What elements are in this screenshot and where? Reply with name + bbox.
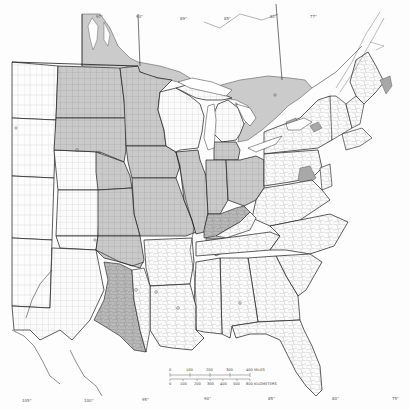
scale-km-0: 0 [169, 382, 171, 386]
northeast-states [264, 52, 392, 190]
scale-bar [170, 373, 250, 381]
lon-label-bottom-0: 105° [22, 398, 32, 403]
scale-km-6: 600 KILOMETERS [246, 382, 277, 386]
lon-label-top-1: 93° [136, 14, 143, 19]
map-svg [0, 0, 409, 410]
lon-label-bottom-4: 85° [268, 396, 275, 401]
scale-miles-1: 100 [186, 368, 193, 372]
lon-label-bottom-3: 90° [204, 396, 211, 401]
scale-km-1: 100 [180, 382, 187, 386]
scale-km-5: 500 [233, 382, 240, 386]
lon-label-bottom-6: 75° [392, 396, 399, 401]
lon-label-bottom-1: 100° [84, 398, 94, 403]
scale-km-4: 400 [220, 382, 227, 386]
scale-miles-0: 0 [169, 368, 171, 372]
scale-km-3: 300 [207, 382, 214, 386]
lon-label-top-0: 97° [96, 14, 103, 19]
lon-label-top-5: 77° [310, 14, 317, 19]
scale-miles-3: 300 [226, 368, 233, 372]
lon-label-top-4: 81° [270, 14, 277, 19]
scale-km-2: 200 [194, 382, 201, 386]
lon-label-top-3: 85° [224, 16, 231, 21]
lon-label-top-2: 89° [180, 16, 187, 21]
lon-label-bottom-5: 80° [332, 396, 339, 401]
lon-label-bottom-2: 95° [142, 397, 149, 402]
scale-miles-2: 200 [206, 368, 213, 372]
lake-michigan [204, 104, 216, 150]
map-container: 97° 93° 89° 85° 81° 77° 105° 100° 95° 90… [0, 0, 409, 410]
scale-miles-4: 400 MILES [246, 368, 265, 372]
